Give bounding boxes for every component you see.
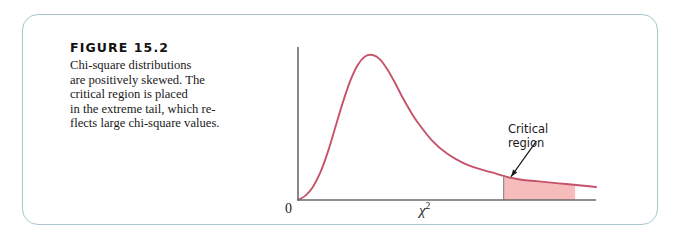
figure-caption-block: FIGURE 15.2 Chi-square distributions are… xyxy=(70,41,255,131)
figure-number-label: FIGURE 15.2 xyxy=(70,41,255,55)
critical-region-label-line: region xyxy=(508,136,548,150)
annotation-leader-arrowhead xyxy=(511,169,517,176)
chi-glyph: χ xyxy=(419,202,426,218)
caption-line: in the extreme tail, which re- xyxy=(70,102,255,117)
caption-line: are positively skewed. The xyxy=(70,73,255,88)
chi-square-plot xyxy=(278,37,678,227)
x-axis-origin-tick-label: 0 xyxy=(285,201,292,217)
critical-region-shading xyxy=(504,176,576,200)
figure-screenshot: FIGURE 15.2 Chi-square distributions are… xyxy=(0,0,680,244)
caption-line: flects large chi-square values. xyxy=(70,116,255,131)
critical-region-label-line: Critical xyxy=(508,122,548,136)
critical-region-annotation-label: Critical region xyxy=(508,122,548,150)
x-axis-title-chi-square: χ2 xyxy=(419,201,430,219)
caption-line: critical region is placed xyxy=(70,87,255,102)
plot-canvas xyxy=(278,37,678,227)
chi-exponent: 2 xyxy=(426,201,431,211)
figure-card: FIGURE 15.2 Chi-square distributions are… xyxy=(22,14,658,225)
chi-square-density-curve xyxy=(298,55,596,200)
caption-line: Chi-square distributions xyxy=(70,58,255,73)
figure-caption-text: Chi-square distributions are positively … xyxy=(70,58,255,131)
